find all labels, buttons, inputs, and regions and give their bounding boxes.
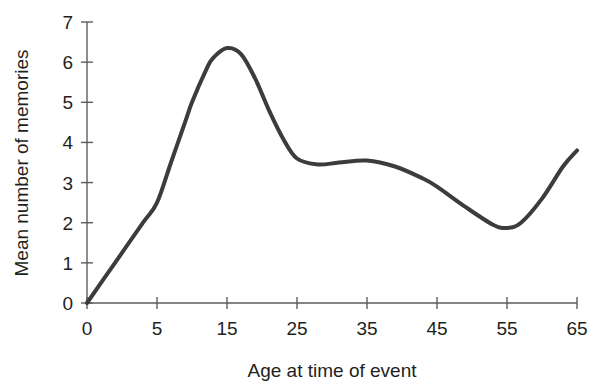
y-tick-label: 5 [62,92,73,113]
y-axis-title: Mean number of memories [11,49,32,276]
chart-figure: 01234567 05152535455565 Age at time of e… [0,0,612,390]
y-tick-label: 7 [62,12,73,33]
x-tick-label: 5 [152,318,163,339]
x-tick-label-group: 05152535455565 [82,318,588,339]
y-tick-label: 6 [62,52,73,73]
y-tick-label: 0 [62,293,73,314]
memories-curve [87,48,577,303]
x-tick-label: 15 [216,318,237,339]
y-tick-label: 2 [62,213,73,234]
x-tick-label: 55 [496,318,517,339]
y-tick-label: 3 [62,173,73,194]
x-tick-label: 35 [356,318,377,339]
y-tick-label: 1 [62,253,73,274]
x-tick-label: 0 [82,318,93,339]
x-axis-title: Age at time of event [248,360,418,381]
x-tick-label: 45 [426,318,447,339]
y-tick-label-group: 01234567 [62,12,73,314]
y-tick-label: 4 [62,132,73,153]
line-chart: 01234567 05152535455565 Age at time of e… [0,0,612,390]
x-tick-label: 65 [566,318,587,339]
x-tick-label: 25 [286,318,307,339]
